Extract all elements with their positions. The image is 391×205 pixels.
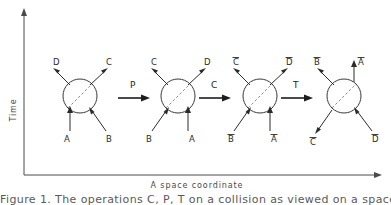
vertex-4-arrow-lower-right [354,107,372,131]
vertex-4-arrow-upper-right [351,60,357,82]
svg-text:C: C [233,57,239,67]
axis-x [24,172,382,178]
vertex-3: C D B A [228,57,294,144]
vertex-4-arrow-lower-left [315,110,332,134]
vertex-2-arrow-upper-right [188,68,206,85]
vertex-2-label-lower-left: B [146,134,152,144]
svg-text:D: D [286,57,293,67]
vertex-3-label-lower-left: B [228,134,235,144]
svg-text:D: D [372,134,379,144]
vertex-4-label-upper-right: A [358,57,365,67]
axis-x-label: A space coordinate [151,181,244,190]
vertex-4-arrow-upper-left [317,68,334,85]
vertex-4-label-lower-right: D [372,134,380,144]
vertex-2-label-upper-right: D [204,57,211,67]
svg-text:A: A [271,134,277,144]
vertex-3-label-upper-left: C [233,57,240,67]
operator-arrow-parity: P [118,80,150,102]
vertex-1: D C A B [53,57,112,144]
vertex-2-arrow-lower-left [152,107,169,131]
vertex-3-label-lower-right: A [271,134,278,144]
svg-text:B: B [314,57,320,67]
operator-arrow-time-reversal: T [281,80,313,102]
svg-text:A: A [358,57,364,67]
vertex-1-label-lower-right: B [106,134,112,144]
operator-label-time-reversal: T [292,80,299,90]
svg-text:C: C [310,137,316,147]
axis-y [21,8,27,175]
vertex-1-arrow-lower-left [67,106,73,131]
vertex-1-label-upper-right: C [106,57,112,67]
vertex-3-label-upper-right: D [286,57,294,67]
figure-caption: Figure 1. The operations C, P, T on a co… [0,193,391,205]
svg-text:B: B [228,134,234,144]
vertex-1-arrow-upper-right [90,68,108,85]
vertex-2-label-lower-right: A [189,134,195,144]
vertex-2-arrow-lower-right [185,106,191,131]
vertex-3-arrow-lower-left [234,107,251,131]
vertex-3-arrow-upper-left [233,68,250,85]
vertex-4-label-upper-left: B [314,57,321,67]
vertex-3-arrow-upper-right [270,68,288,85]
vertex-1-arrow-upper-left [53,68,70,85]
vertex-2-arrow-upper-left [151,68,168,85]
operator-label-parity: P [130,80,136,90]
vertex-1-arrow-lower-right [89,107,106,131]
vertex-2: C D B A [146,57,211,144]
cpt-symmetry-figure: D C A B P [0,0,391,205]
vertex-1-label-upper-left: D [53,57,60,67]
vertex-2-label-upper-left: C [151,57,157,67]
operator-label-charge-conjugation: C [211,80,218,90]
axis-y-label: Time [9,98,18,122]
vertex-3-arrow-lower-right [267,106,273,131]
vertex-4: B A C D [310,57,380,147]
operator-arrow-charge-conjugation: C [199,80,231,102]
vertex-4-label-lower-left: C [310,137,317,147]
vertex-1-label-lower-left: A [64,134,70,144]
